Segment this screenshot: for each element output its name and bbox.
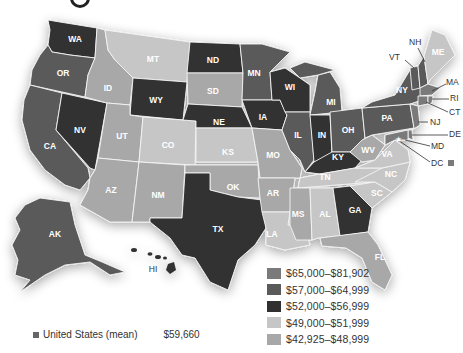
label-WA: WA [68, 34, 82, 44]
callout-MD: MD [431, 141, 444, 151]
mean-swatch [33, 332, 39, 338]
label-WI: WI [285, 82, 295, 92]
legend-swatch [267, 317, 281, 328]
callout-DC: DC [431, 158, 443, 168]
label-MI: MI [326, 97, 335, 107]
label-AR: AR [267, 188, 279, 198]
callout-MA: MA [446, 77, 459, 87]
state-RI[interactable] [428, 96, 433, 104]
dc-star-icon: ★ [395, 135, 402, 144]
label-CO: CO [162, 140, 175, 150]
label-WV: WV [361, 145, 375, 155]
label-WY: WY [149, 95, 163, 105]
label-TN: TN [319, 172, 330, 182]
label-MS: MS [292, 209, 305, 219]
label-OR: OR [57, 68, 70, 78]
label-NM: NM [151, 190, 164, 200]
label-VA: VA [381, 149, 392, 159]
legend-item: $42,925–$48,999 [267, 331, 369, 348]
label-HI: HI [149, 264, 158, 274]
label-IN: IN [318, 130, 327, 140]
us-income-map: WA OR CA NV ID MT WY UT AZ CO NM ND SD N… [0, 0, 463, 353]
legend-label: $49,000–$51,999 [286, 317, 369, 329]
legend-swatch [267, 268, 281, 279]
label-FL: FL [375, 252, 385, 262]
dc-color-swatch [448, 160, 454, 166]
label-TX: TX [213, 224, 224, 234]
label-PA: PA [381, 113, 392, 123]
callout-RI: RI [450, 93, 459, 103]
legend-item: $57,000–$64,999 [267, 282, 369, 299]
label-ME: ME [432, 47, 445, 57]
legend-item: $52,000–$56,999 [267, 298, 369, 315]
legend-label: $52,000–$56,999 [286, 300, 369, 312]
callout-DE: DE [449, 129, 461, 139]
callout-NJ: NJ [430, 117, 440, 127]
legend-item: $65,000–$81,902 [267, 265, 369, 282]
label-KY: KY [332, 152, 344, 162]
legend-label: $57,000–$64,999 [286, 284, 369, 296]
legend: $65,000–$81,902 $57,000–$64,999 $52,000–… [267, 265, 369, 348]
label-MO: MO [266, 150, 280, 160]
state-CT[interactable] [418, 96, 428, 106]
label-AK: AK [49, 229, 62, 239]
label-OH: OH [342, 125, 355, 135]
label-KS: KS [222, 147, 234, 157]
label-NC: NC [385, 169, 397, 179]
legend-item: $49,000–$51,999 [267, 315, 369, 332]
state-MI[interactable] [310, 72, 342, 115]
label-CA: CA [44, 141, 56, 151]
callout-VT: VT [389, 52, 400, 62]
legend-swatch [267, 301, 281, 312]
label-MN: MN [247, 68, 260, 78]
legend-swatch [267, 334, 281, 345]
us-mean: United States (mean) $59,660 [33, 329, 200, 340]
label-ID: ID [104, 83, 113, 93]
label-NE: NE [213, 117, 225, 127]
legend-label: $42,925–$48,999 [286, 333, 369, 345]
label-OK: OK [227, 182, 241, 192]
mean-label: United States (mean) [43, 329, 138, 340]
label-NY: NY [396, 85, 408, 95]
label-GA: GA [349, 205, 362, 215]
label-NV: NV [74, 125, 86, 135]
legend-swatch [267, 284, 281, 295]
label-LA: LA [266, 229, 277, 239]
mean-value: $59,660 [164, 329, 200, 340]
label-AZ: AZ [105, 185, 116, 195]
label-SD: SD [207, 86, 219, 96]
callout-CT: CT [449, 107, 460, 117]
label-IL: IL [294, 130, 302, 140]
legend-label: $65,000–$81,902 [286, 267, 369, 279]
callout-NH: NH [409, 37, 421, 47]
label-ND: ND [207, 55, 219, 65]
label-MT: MT [147, 54, 160, 64]
label-IA: IA [259, 112, 268, 122]
label-UT: UT [116, 131, 128, 141]
label-SC: SC [371, 188, 383, 198]
label-AL: AL [319, 209, 330, 219]
